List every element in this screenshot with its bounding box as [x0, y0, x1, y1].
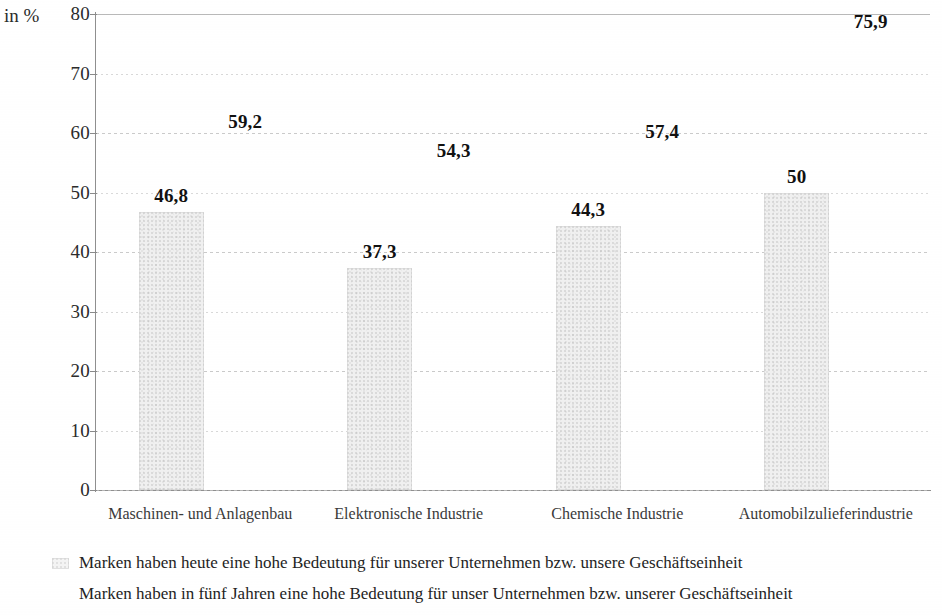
y-axis-tick-label: 30	[44, 302, 90, 321]
gridline	[96, 133, 930, 134]
bar-chart: in % 01020304050607080 46,837,344,35059,…	[0, 0, 942, 615]
category-label: Chemische Industrie	[551, 505, 683, 523]
category-label: Maschinen- und Anlagenbau	[108, 505, 292, 523]
y-axis-tick-label: 50	[44, 183, 90, 202]
bar	[347, 268, 412, 490]
legend-item: Marken haben in fünf Jahren eine hohe Be…	[52, 579, 793, 609]
y-axis-tick-label: 0	[44, 480, 90, 499]
y-axis-tick-mark	[90, 193, 97, 194]
bar	[139, 212, 204, 490]
legend-swatch-icon	[52, 558, 69, 569]
projected-value-label: 59,2	[228, 112, 262, 131]
legend: Marken haben heute eine hohe Bedeutung f…	[0, 548, 942, 615]
gridline	[96, 74, 930, 75]
projected-value-label: 75,9	[854, 12, 888, 31]
y-axis-tick-mark	[90, 133, 97, 134]
bar	[556, 226, 621, 490]
projected-value-label: 54,3	[437, 141, 471, 160]
gridline	[96, 14, 930, 15]
bar-value-label: 37,3	[363, 242, 397, 261]
y-axis-tick-mark	[90, 371, 97, 372]
bar-value-label: 46,8	[154, 186, 188, 205]
legend-label: Marken haben in fünf Jahren eine hohe Be…	[79, 584, 793, 604]
bar-value-label: 44,3	[571, 200, 605, 219]
legend-item: Marken haben heute eine hohe Bedeutung f…	[52, 548, 743, 578]
y-axis-unit-label: in %	[4, 6, 39, 25]
y-axis-tick-mark	[90, 431, 97, 432]
y-axis-tick-label: 80	[44, 4, 90, 23]
category-label: Elektronische Industrie	[334, 505, 483, 523]
y-axis-tick-mark	[90, 312, 97, 313]
y-axis-tick-label: 20	[44, 361, 90, 380]
y-axis-tick-mark	[90, 74, 97, 75]
projected-value-label: 57,4	[645, 122, 679, 141]
legend-label: Marken haben heute eine hohe Bedeutung f…	[79, 553, 743, 573]
y-axis-tick-mark	[90, 252, 97, 253]
bar	[764, 193, 829, 491]
y-axis-tick-mark	[90, 14, 97, 15]
plot-area	[96, 14, 930, 490]
category-label: Automobilzulieferindustrie	[739, 505, 913, 523]
y-axis-tick-label: 70	[44, 64, 90, 83]
bar-value-label: 50	[787, 167, 806, 186]
gridline	[96, 490, 930, 491]
y-axis-tick-label: 40	[44, 242, 90, 261]
y-axis-tick-label: 10	[44, 421, 90, 440]
y-axis-tick-label: 60	[44, 123, 90, 142]
y-axis-tick-mark	[90, 490, 97, 491]
y-axis-tick-labels: 01020304050607080	[38, 0, 90, 615]
